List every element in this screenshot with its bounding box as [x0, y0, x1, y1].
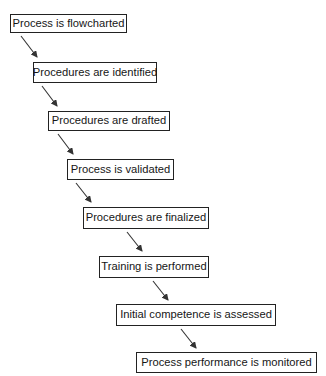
step-box-finalized: Procedures are finalized: [83, 207, 209, 229]
step-box-training: Training is performed: [99, 256, 209, 278]
step-box-drafted: Procedures are drafted: [48, 111, 170, 131]
arrow-icon: [76, 183, 91, 202]
arrow-icon: [42, 86, 57, 106]
step-box-monitored: Process performance is monitored: [136, 352, 317, 373]
arrow-icon: [153, 281, 168, 300]
step-label: Process is validated: [71, 164, 171, 175]
step-label: Initial competence is assessed: [120, 309, 272, 320]
arrow-icon: [181, 329, 196, 348]
step-label: Procedures are drafted: [52, 115, 166, 126]
step-label: Procedures are finalized: [86, 212, 207, 223]
arrow-icon: [127, 232, 142, 251]
step-label: Procedures are identified: [33, 67, 157, 78]
step-box-flowcharted: Process is flowcharted: [10, 14, 127, 33]
step-label: Process performance is monitored: [141, 357, 311, 368]
step-label: Training is performed: [101, 261, 206, 272]
step-box-competence: Initial competence is assessed: [116, 304, 276, 326]
arrow-icon: [58, 134, 73, 154]
arrow-icon: [21, 36, 37, 57]
step-box-identified: Procedures are identified: [33, 62, 157, 83]
step-label: Process is flowcharted: [13, 18, 125, 29]
step-box-validated: Process is validated: [67, 159, 174, 180]
